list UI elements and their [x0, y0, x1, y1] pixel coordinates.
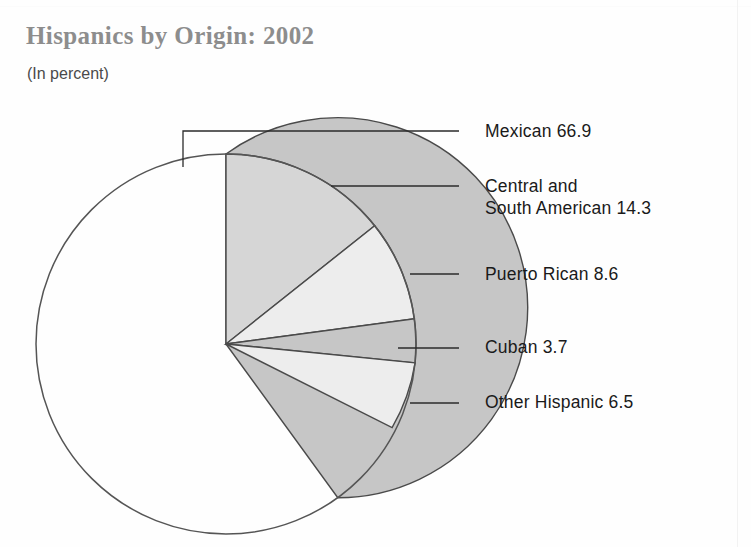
callout-text-mexican: Mexican 66.9 — [485, 121, 592, 143]
callout-label-puerto-rican[interactable]: Puerto Rican 8.6 — [485, 264, 619, 286]
callout-text-other-hispanic: Other Hispanic 6.5 — [485, 392, 634, 414]
callout-text-cuban: Cuban 3.7 — [485, 337, 568, 359]
callout-label-cuban[interactable]: Cuban 3.7 — [485, 337, 568, 359]
callout-text-puerto-rican: Puerto Rican 8.6 — [485, 264, 619, 286]
pie-chart-graphic — [0, 0, 751, 547]
callout-label-mexican[interactable]: Mexican 66.9 — [485, 121, 592, 143]
callout-label-other-hispanic[interactable]: Other Hispanic 6.5 — [485, 392, 634, 414]
callout-text-central-south-american-line2: South American 14.3 — [485, 198, 651, 220]
callout-label-central-south-american[interactable]: Central and South American 14.3 — [485, 176, 651, 220]
callout-text-central-south-american-line1: Central and — [485, 176, 651, 198]
chart-page: Hispanics by Origin: 2002 (In percent) M… — [0, 0, 751, 547]
